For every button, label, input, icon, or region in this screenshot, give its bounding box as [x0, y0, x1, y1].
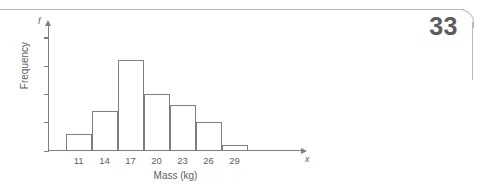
x-tick-label: 11	[74, 156, 84, 166]
histogram-bar	[222, 145, 248, 151]
y-tick-mark	[44, 151, 49, 152]
y-axis-symbol: f	[38, 16, 41, 26]
x-tick-label: 26	[203, 156, 214, 166]
x-tick-label: 20	[151, 156, 162, 166]
x-axis-symbol: x	[305, 154, 310, 164]
x-tick-label: 23	[177, 156, 188, 166]
page-container: 33 f x 05101520 11141720232629 Frequency…	[0, 0, 484, 194]
histogram-bar	[144, 94, 170, 151]
histogram-bar	[118, 60, 144, 151]
histogram-bar	[196, 122, 222, 150]
y-axis-title: Frequency	[19, 26, 30, 106]
x-tick-label: 17	[125, 156, 136, 166]
histogram-bar	[66, 134, 92, 151]
page-frame-right-border	[472, 22, 473, 80]
page-frame-top-border	[0, 9, 464, 10]
histogram-bar	[92, 111, 118, 151]
histogram-bar	[170, 105, 196, 150]
histogram-chart: f x 05101520 11141720232629 Frequency Ma…	[0, 12, 340, 194]
x-tick-label: 29	[229, 156, 240, 166]
x-tick-label: 14	[99, 156, 110, 166]
x-axis-title: Mass (kg)	[48, 170, 303, 181]
page-number: 33	[429, 14, 458, 39]
histogram-bars	[49, 26, 304, 151]
